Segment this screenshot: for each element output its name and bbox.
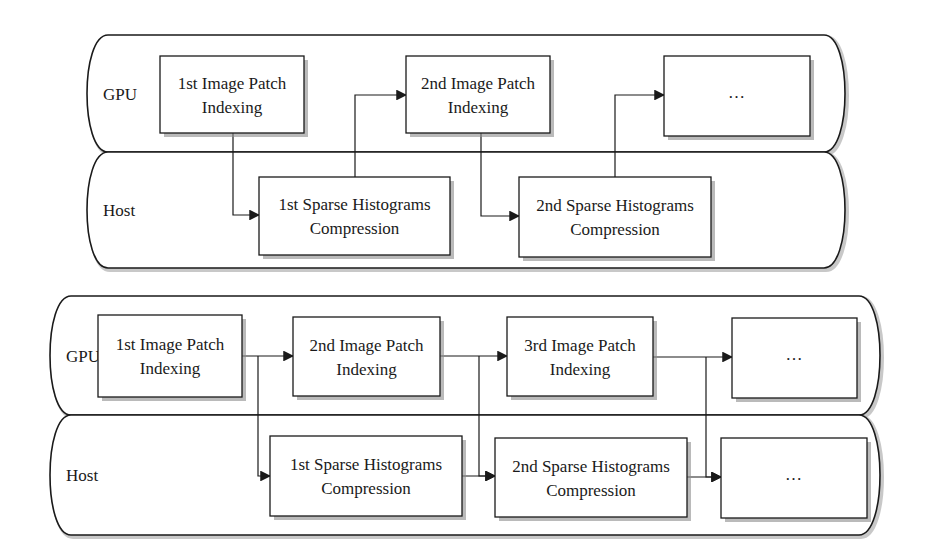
process-box-host-1: 1st Sparse HistogramsCompression bbox=[259, 177, 454, 259]
process-box-gpu-1: 1st Image PatchIndexing bbox=[98, 315, 246, 401]
lane-label: GPU bbox=[66, 347, 100, 366]
lane-outline bbox=[87, 152, 845, 268]
overlapped-pipeline-diagram: GPUHost1st Image PatchIndexing2nd Image … bbox=[50, 296, 882, 537]
ellipsis-label: … bbox=[728, 83, 746, 102]
lane-label: GPU bbox=[103, 85, 137, 104]
process-box-outline bbox=[519, 177, 711, 257]
process-label: Compression bbox=[546, 481, 636, 500]
process-box-gpu-1: 1st Image PatchIndexing bbox=[160, 56, 308, 137]
process-label: 1st Image Patch bbox=[178, 74, 287, 93]
lane-label: Host bbox=[103, 201, 135, 220]
process-box-gpu-4: … bbox=[732, 318, 861, 402]
process-label: 1st Sparse Histograms bbox=[278, 195, 430, 214]
process-box-host-3: … bbox=[721, 438, 871, 522]
process-label: 3rd Image Patch bbox=[524, 336, 636, 355]
process-box-gpu-3: 3rd Image PatchIndexing bbox=[507, 317, 657, 400]
process-box-outline bbox=[160, 56, 304, 133]
process-box-gpu-3: … bbox=[664, 56, 814, 140]
process-box-outline bbox=[406, 56, 550, 133]
process-box-gpu-2: 2nd Image PatchIndexing bbox=[293, 317, 444, 400]
process-label: Indexing bbox=[448, 98, 509, 117]
process-label: Compression bbox=[321, 479, 411, 498]
process-label: Compression bbox=[310, 219, 400, 238]
process-box-outline bbox=[98, 315, 242, 397]
sequential-pipeline-diagram: GPUHost1st Image PatchIndexing2nd Image … bbox=[87, 35, 847, 270]
process-box-outline bbox=[259, 177, 450, 255]
process-box-outline bbox=[507, 317, 653, 396]
diagram-canvas: GPUHost1st Image PatchIndexing2nd Image … bbox=[0, 0, 929, 560]
process-box-host-2: 2nd Sparse HistogramsCompression bbox=[519, 177, 715, 261]
process-box-gpu-2: 2nd Image PatchIndexing bbox=[406, 56, 554, 137]
process-box-outline bbox=[495, 438, 687, 517]
ellipsis-label: … bbox=[786, 345, 804, 364]
process-label: Compression bbox=[570, 220, 660, 239]
process-label: 2nd Image Patch bbox=[421, 74, 536, 93]
process-label: 1st Sparse Histograms bbox=[290, 455, 442, 474]
process-label: 2nd Sparse Histograms bbox=[536, 196, 694, 215]
process-box-host-2: 2nd Sparse HistogramsCompression bbox=[495, 438, 691, 521]
process-label: Indexing bbox=[202, 98, 263, 117]
ellipsis-label: … bbox=[785, 465, 803, 484]
process-box-host-1: 1st Sparse HistogramsCompression bbox=[270, 436, 466, 520]
process-label: 2nd Image Patch bbox=[309, 336, 424, 355]
process-box-outline bbox=[293, 317, 440, 396]
process-label: Indexing bbox=[140, 359, 201, 378]
process-label: 2nd Sparse Histograms bbox=[512, 457, 670, 476]
lane-label: Host bbox=[66, 466, 98, 485]
pipeline-figure: GPUHost1st Image PatchIndexing2nd Image … bbox=[0, 0, 929, 560]
process-label: Indexing bbox=[550, 360, 611, 379]
process-box-outline bbox=[270, 436, 462, 516]
lane-host: Host bbox=[87, 152, 847, 270]
process-label: 1st Image Patch bbox=[116, 335, 225, 354]
process-label: Indexing bbox=[336, 360, 397, 379]
